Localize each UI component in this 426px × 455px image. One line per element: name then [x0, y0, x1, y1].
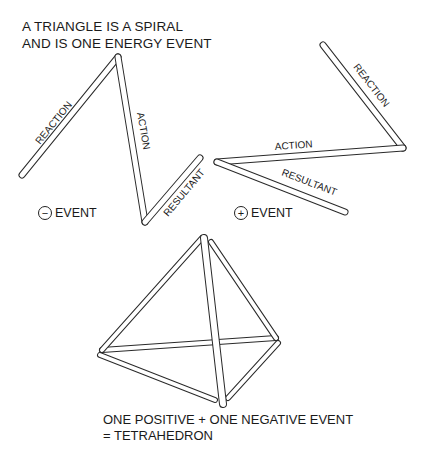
tetra-edge-left-right [102, 338, 276, 350]
tetra-edge-right-bottom [228, 343, 278, 398]
minus-circle-icon: − [38, 206, 52, 220]
tetra-edge-apex-left [102, 238, 202, 350]
caption-line-2: = TETRAHEDRON [103, 428, 353, 444]
right-action-label: ACTION [274, 138, 312, 152]
caption-line-1: ONE POSITIVE + ONE NEGATIVE EVENT [103, 412, 353, 428]
tetra-edge-apex-bottom [204, 238, 223, 404]
tetra-edge-left-bottom [100, 355, 215, 400]
tetrahedron [100, 238, 278, 404]
diagram-caption: ONE POSITIVE + ONE NEGATIVE EVENT = TETR… [103, 412, 353, 444]
negative-event-text: EVENT [55, 206, 97, 220]
right-reaction-rod [323, 45, 403, 148]
positive-event-text: EVENT [251, 206, 293, 220]
positive-event-label: + EVENT [234, 206, 293, 220]
negative-event-label: − EVENT [38, 206, 97, 220]
plus-circle-icon: + [234, 206, 248, 220]
right-action-rod [217, 148, 403, 162]
left-action-label: ACTION [135, 111, 152, 150]
left-reaction-rod [22, 57, 118, 175]
left-triangle: REACTION ACTION RESULTANT [22, 57, 207, 222]
right-triangle: REACTION ACTION RESULTANT [217, 45, 403, 212]
tetra-edge-apex-right [211, 242, 276, 338]
diagram-canvas: REACTION ACTION RESULTANT REACTION ACTIO… [0, 0, 426, 455]
